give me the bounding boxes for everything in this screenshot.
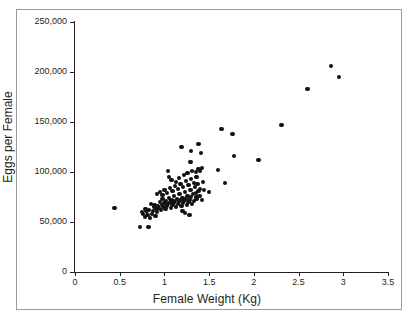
data-point bbox=[176, 187, 180, 191]
x-tick-mark bbox=[388, 272, 389, 276]
data-point bbox=[187, 213, 191, 217]
data-point bbox=[170, 189, 174, 193]
data-point bbox=[181, 185, 185, 189]
x-tick-label: 3 bbox=[341, 278, 346, 287]
data-point bbox=[146, 225, 150, 229]
data-point bbox=[202, 188, 206, 192]
y-tick-label: 100,000 bbox=[34, 167, 67, 176]
data-point bbox=[279, 123, 283, 127]
data-point bbox=[201, 180, 205, 184]
x-axis-title: Female Weight (Kg) bbox=[0, 292, 414, 306]
data-point bbox=[219, 127, 223, 131]
data-point bbox=[200, 198, 204, 202]
data-point bbox=[189, 149, 193, 153]
data-point bbox=[153, 214, 157, 218]
x-tick-mark bbox=[299, 272, 300, 276]
scatter-plot-figure: 050,000100,000150,000200,000250,000 00.5… bbox=[0, 0, 414, 321]
x-tick-label: 2.5 bbox=[292, 278, 305, 287]
y-tick-label: 250,000 bbox=[34, 17, 67, 26]
data-point bbox=[256, 158, 260, 162]
data-point bbox=[329, 64, 333, 68]
data-point bbox=[177, 176, 181, 180]
x-tick-label: 2 bbox=[251, 278, 256, 287]
data-point bbox=[138, 225, 142, 229]
y-tick-label: 0 bbox=[62, 267, 67, 276]
data-point bbox=[200, 166, 204, 170]
data-point bbox=[196, 142, 200, 146]
data-point bbox=[165, 191, 169, 195]
data-point bbox=[148, 216, 152, 220]
x-tick-label: 1 bbox=[162, 278, 167, 287]
y-tick-label: 150,000 bbox=[34, 117, 67, 126]
plot-data-area bbox=[75, 22, 388, 272]
data-point bbox=[194, 195, 198, 199]
data-point bbox=[166, 169, 170, 173]
y-axis-title: Eggs per Female bbox=[1, 57, 15, 217]
x-tick-label: 1.5 bbox=[203, 278, 216, 287]
data-point bbox=[188, 160, 192, 164]
data-point bbox=[216, 168, 220, 172]
x-axis-line bbox=[74, 272, 389, 273]
data-point bbox=[230, 132, 234, 136]
x-tick-mark bbox=[254, 272, 255, 276]
x-tick-label: 3.5 bbox=[382, 278, 395, 287]
data-point bbox=[207, 190, 211, 194]
data-point bbox=[223, 181, 227, 185]
data-point bbox=[194, 175, 198, 179]
data-point bbox=[179, 145, 183, 149]
x-tick-mark bbox=[209, 272, 210, 276]
data-point bbox=[199, 151, 203, 155]
data-point bbox=[305, 87, 309, 91]
y-tick-label: 200,000 bbox=[34, 67, 67, 76]
data-point bbox=[112, 206, 116, 210]
x-tick-mark bbox=[164, 272, 165, 276]
x-tick-mark bbox=[343, 272, 344, 276]
data-point bbox=[232, 154, 236, 158]
y-tick-label: 50,000 bbox=[39, 217, 67, 226]
data-point bbox=[337, 75, 341, 79]
x-tick-mark bbox=[120, 272, 121, 276]
x-tick-label: 0.5 bbox=[113, 278, 126, 287]
x-tick-label: 0 bbox=[72, 278, 77, 287]
x-tick-mark bbox=[75, 272, 76, 276]
data-point bbox=[186, 183, 190, 187]
